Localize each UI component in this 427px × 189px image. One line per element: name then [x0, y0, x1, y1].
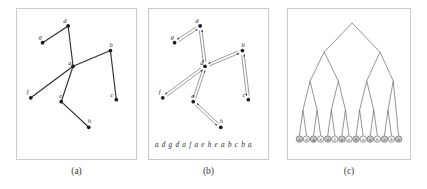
graph-edge-ab [73, 51, 110, 67]
directed-arc-b-to-c [242, 55, 247, 96]
euler-vertex-label-c: c [242, 91, 245, 98]
tree-edge [356, 110, 360, 135]
tree-edge [331, 81, 338, 110]
tree-leaf-label-9: e [362, 137, 364, 142]
directed-arc-d-to-g [177, 27, 196, 39]
graph-vertex-label-c: c [110, 91, 113, 98]
panel-c-canvas: adgdafaeheabcba [288, 9, 410, 159]
directed-arc-c-to-b [244, 55, 249, 96]
tree-edge [338, 81, 345, 110]
tree-leaf-label-12: c [383, 137, 385, 142]
graph-vertex-e [59, 100, 63, 104]
euler-vertex-label-e: e [191, 92, 194, 99]
euler-tour-sequence-text: a d g d a f a e h e a b c b a [155, 141, 253, 149]
tree-leaf-node-3: d [317, 136, 323, 142]
tree-leaf-node-5: f [332, 136, 338, 142]
euler-vertex-label-a: a [200, 59, 203, 66]
figure-three-panels: abcdefgh (a) abcdefgha d g d a f a e h e… [0, 0, 427, 189]
tree-edge [303, 81, 310, 110]
graph-vertex-b [109, 49, 113, 53]
tree-leaf-node-7: e [346, 136, 352, 142]
panel-b-euler-tour-graph: abcdefgha d g d a f a e h e a b c b a [148, 8, 269, 160]
directed-arc-h-to-e [197, 104, 218, 124]
euler-vertex-e [191, 100, 195, 104]
directed-arc-b-to-a [208, 51, 238, 64]
graph-vertex-a [71, 64, 75, 68]
tree-edge [380, 52, 393, 81]
tree-leaf-node-10: a [367, 136, 373, 142]
graph-vertex-f [29, 96, 33, 100]
tree-edge [360, 81, 367, 110]
tree-leaf-label-8: h [355, 137, 357, 142]
euler-vertex-label-d: d [195, 17, 199, 24]
tree-leaf-label-6: a [341, 137, 343, 142]
panel-b-canvas: abcdefgha d g d a f a e h e a b c b a [149, 9, 268, 159]
tree-edge [331, 110, 335, 135]
tree-leaf-node-12: c [381, 136, 387, 142]
tree-leaf-label-0: a [298, 137, 300, 142]
euler-vertex-label-f: f [159, 88, 162, 95]
euler-vertex-f [161, 96, 165, 100]
tree-leaf-label-4: a [327, 137, 329, 142]
tree-edge [299, 110, 303, 135]
euler-vertex-h [219, 125, 223, 129]
tree-leaf-node-6: a [339, 136, 345, 142]
tree-leaf-node-14: a [395, 136, 401, 142]
panel-c-binary-tree: adgdafaeheabcba [287, 8, 411, 160]
euler-vertex-c [246, 98, 250, 102]
caption-b: (b) [148, 166, 269, 176]
tree-leaf-node-9: e [360, 136, 366, 142]
euler-vertex-b [241, 49, 245, 53]
tree-edge [328, 110, 332, 135]
panel-a-undirected-graph: abcdefgh [16, 8, 137, 160]
euler-vertex-label-g: g [171, 33, 175, 40]
tree-leaf-node-1: d [303, 136, 309, 142]
tree-edge [388, 81, 393, 110]
tree-leaf-node-2: g [310, 136, 316, 142]
tree-edge [367, 52, 380, 81]
graph-vertex-label-d: d [63, 17, 67, 24]
graph-edge-af [31, 66, 73, 97]
graph-edge-eh [61, 102, 89, 128]
tree-edge [352, 23, 380, 52]
euler-vertex-a [203, 64, 207, 68]
euler-vertex-d [198, 24, 202, 28]
graph-vertex-h [87, 125, 91, 129]
directed-arc-e-to-h [195, 105, 216, 125]
tree-edge [374, 110, 378, 135]
tree-edge [310, 81, 317, 110]
tree-leaf-node-8: h [353, 136, 359, 142]
tree-edge [345, 110, 349, 135]
graph-vertex-label-g: g [39, 33, 43, 40]
tree-edge [314, 110, 318, 135]
euler-vertex-label-h: h [220, 117, 223, 124]
tree-edge [310, 52, 324, 81]
tree-edge [324, 23, 352, 52]
tree-edge [360, 110, 364, 135]
directed-arc-a-to-e [193, 70, 202, 98]
caption-a: (a) [16, 166, 137, 176]
tree-leaf-node-0: a [296, 136, 302, 142]
tree-edge [303, 110, 307, 135]
directed-arc-e-to-a [196, 71, 205, 99]
directed-arc-f-to-a [167, 70, 203, 97]
euler-vertex-label-b: b [241, 41, 245, 48]
graph-vertex-label-b: b [109, 41, 113, 48]
euler-vertex-g [173, 41, 177, 45]
tree-leaf-label-7: e [348, 137, 350, 142]
graph-vertex-label-f: f [27, 88, 30, 95]
tree-leaf-node-11: b [374, 136, 380, 142]
caption-c: (c) [287, 166, 411, 176]
graph-vertex-label-h: h [88, 117, 91, 124]
tree-edge [384, 110, 388, 135]
tree-leaf-label-14: a [398, 137, 400, 142]
tree-edge [342, 110, 346, 135]
tree-edge [393, 81, 398, 136]
tree-leaf-label-10: a [369, 137, 371, 142]
graph-vertex-g [41, 41, 45, 45]
directed-arc-a-to-b [209, 53, 239, 66]
graph-vertex-label-e: e [59, 92, 62, 99]
tree-edge [388, 110, 392, 135]
graph-vertex-d [66, 24, 70, 28]
tree-edge [324, 52, 338, 81]
